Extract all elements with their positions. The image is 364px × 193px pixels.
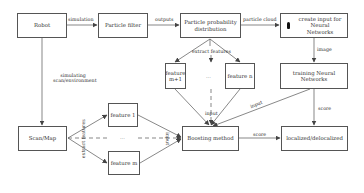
node-particle-probability: Particle probability distribution	[180, 13, 241, 38]
node-particle-probability-label: Particle probability distribution	[183, 19, 238, 32]
node-localized-label: localized/delocalized	[286, 135, 343, 141]
edge-label-input-top: input	[205, 111, 218, 116]
node-training-nn: training Neural Networks	[280, 63, 348, 89]
node-localized: localized/delocalized	[281, 126, 348, 151]
node-feature-n-label: feature n	[228, 73, 253, 79]
node-feature-m1: feature m+1	[165, 63, 186, 89]
edge-label-simulating-scan: simulating scan/environment	[53, 73, 93, 84]
edge-label-score-nn: score	[318, 106, 331, 111]
node-feature-m: feature m	[108, 151, 140, 175]
ellipsis-top: ...	[206, 73, 211, 79]
node-boosting-label: Boosting method	[187, 135, 233, 141]
node-training-nn-label: training Neural Networks	[289, 70, 339, 83]
node-boosting: Boosting method	[182, 126, 239, 151]
node-scan-map: Scan/Map	[18, 126, 67, 151]
node-scan-map-label: Scan/Map	[29, 135, 56, 141]
edge-label-extract-features-left: extract features	[81, 119, 86, 158]
node-feature-n: feature n	[225, 63, 255, 89]
edge-label-image: image	[317, 47, 332, 52]
person-icon	[287, 22, 290, 29]
ellipsis-left: ...	[120, 134, 125, 140]
node-feature-m-label: feature m	[111, 160, 138, 166]
node-robot-label: Robot	[34, 22, 50, 28]
node-create-input-label: create input for Neural Networks	[298, 16, 342, 35]
edge-label-score-boost: score	[253, 132, 266, 137]
node-feature-1: feature 1	[108, 103, 138, 127]
edge-label-outputs: outputs	[155, 17, 173, 22]
node-particle-filter: Particle filter	[98, 13, 148, 38]
node-create-input: create input for Neural Networks	[280, 13, 348, 38]
edge-label-extract-features-top: extract features	[192, 49, 231, 54]
edge-label-simulation: simulation	[68, 17, 93, 22]
edge-label-input-left: input	[165, 132, 170, 145]
edge-label-particle-cloud: particle cloud	[243, 17, 277, 22]
node-feature-1-label: feature 1	[111, 112, 136, 118]
node-feature-m1-label: feature m+1	[166, 70, 186, 83]
node-particle-filter-label: Particle filter	[105, 22, 141, 28]
node-robot: Robot	[17, 13, 67, 38]
